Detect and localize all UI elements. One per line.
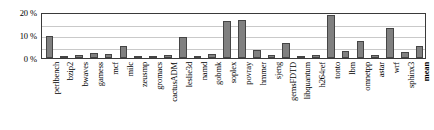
y-axis: 0 %10 %20 % bbox=[0, 0, 40, 130]
x-tick-label: astar bbox=[377, 62, 386, 77]
x-tick-label: hmmer bbox=[259, 62, 268, 85]
bar bbox=[134, 56, 142, 58]
bar bbox=[120, 46, 128, 58]
x-tick-label: mcf bbox=[111, 62, 120, 75]
bars-layer bbox=[42, 14, 425, 58]
bar bbox=[46, 36, 54, 58]
x-tick-label: gamess bbox=[96, 62, 105, 86]
x-tick-label: zeusmp bbox=[140, 62, 149, 87]
bar bbox=[401, 52, 409, 58]
bar bbox=[149, 56, 157, 58]
bar bbox=[253, 50, 261, 58]
x-tick-label: bwaves bbox=[81, 62, 90, 87]
x-tick-label: bzip2 bbox=[66, 62, 75, 80]
bar bbox=[75, 55, 83, 58]
bar bbox=[268, 55, 276, 58]
x-tick-label: wrf bbox=[392, 62, 401, 73]
x-tick-label: soplex bbox=[229, 62, 238, 83]
y-tick-label: 0 % bbox=[24, 55, 37, 64]
x-tick-label: sphinx3 bbox=[407, 62, 416, 88]
bar bbox=[342, 51, 350, 58]
bar bbox=[238, 20, 246, 58]
x-tick-label: cactusADM bbox=[170, 62, 179, 102]
x-tick-label: tonto bbox=[333, 62, 342, 79]
bar bbox=[60, 56, 68, 58]
x-tick-label: omnetpp bbox=[363, 62, 372, 91]
bar bbox=[179, 37, 187, 58]
bar bbox=[223, 21, 231, 58]
x-tick-label: h264ref bbox=[318, 62, 327, 87]
x-tick-label: lbm bbox=[348, 62, 357, 75]
bar bbox=[416, 46, 424, 58]
x-tick-label: sjeng bbox=[274, 62, 283, 79]
x-tick-label: milc bbox=[126, 62, 135, 77]
x-tick-label: leslie3d bbox=[185, 62, 194, 87]
x-tick-label: gobmk bbox=[214, 62, 223, 85]
x-tick-label: perlbench bbox=[52, 62, 61, 94]
y-tick-label: 20 % bbox=[20, 9, 37, 18]
x-tick-label: libquantum bbox=[303, 62, 312, 99]
bar bbox=[90, 53, 98, 58]
bar bbox=[208, 54, 216, 58]
benchmark-bar-chart: 0 %10 %20 % perlbenchbzip2bwavesgamessmc… bbox=[0, 0, 434, 130]
bar bbox=[386, 28, 394, 58]
x-tick-label: povray bbox=[244, 62, 253, 85]
bar bbox=[357, 41, 365, 58]
bar bbox=[371, 55, 379, 58]
y-tick-label: 10 % bbox=[20, 32, 37, 41]
x-tick-label: namd bbox=[200, 62, 209, 80]
x-axis: perlbenchbzip2bwavesgamessmcfmilczeusmpg… bbox=[41, 60, 426, 130]
bar bbox=[327, 15, 335, 58]
bar bbox=[164, 55, 172, 58]
x-tick-label: mean bbox=[422, 62, 431, 81]
plot-area bbox=[41, 13, 426, 59]
bar bbox=[297, 56, 305, 58]
bar bbox=[194, 56, 202, 58]
x-tick-label: gromacs bbox=[155, 62, 164, 90]
bar bbox=[312, 55, 320, 58]
bar bbox=[105, 54, 113, 58]
x-tick-label: gemsFDTD bbox=[289, 62, 298, 101]
bar bbox=[282, 43, 290, 58]
